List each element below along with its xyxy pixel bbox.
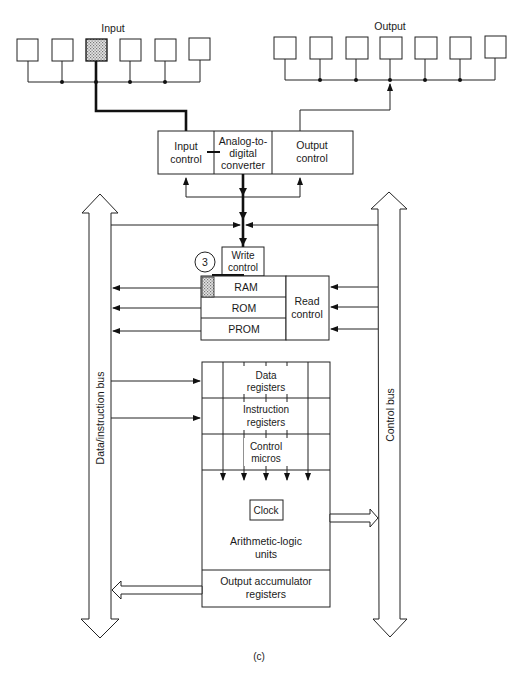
svg-text:Analog-to-: Analog-to-: [219, 135, 268, 147]
rom-label: ROM: [232, 302, 257, 314]
svg-text:registers: registers: [246, 588, 286, 600]
accumulator-to-data-bus-arrow: [112, 581, 202, 599]
control-bus: Control bus: [371, 192, 407, 637]
input-device-1: [17, 39, 38, 82]
svg-text:3: 3: [202, 256, 208, 268]
svg-text:Output accumulator: Output accumulator: [220, 575, 312, 587]
input-label: Input: [101, 22, 124, 34]
svg-text:converter: converter: [221, 159, 265, 171]
data-instruction-bus-label: Data/instruction bus: [94, 372, 106, 465]
input-section: Input: [17, 22, 210, 141]
active-input-path: [96, 61, 186, 141]
output-device-5: [415, 37, 437, 80]
prom-label: PROM: [228, 323, 260, 335]
svg-text:micros: micros: [251, 453, 280, 464]
output-device-3: [346, 37, 368, 80]
converter-block: Input control Analog-to- digital convert…: [158, 131, 353, 247]
ram-shaded-cell: [202, 277, 214, 297]
svg-text:Output: Output: [296, 139, 328, 151]
svg-text:Arithmetic-logic: Arithmetic-logic: [230, 535, 302, 547]
output-device-7: [485, 36, 506, 80]
alu-to-control-bus-arrow: [330, 509, 378, 527]
input-device-2: [52, 39, 73, 82]
svg-text:units: units: [255, 548, 277, 560]
memory-block: 3 Write control RAM ROM PROM Read contro…: [113, 247, 378, 340]
input-device-4: [120, 39, 141, 82]
output-device-4: [380, 37, 402, 80]
svg-text:control: control: [296, 152, 328, 164]
microprocessor-block-diagram: Input Output In: [0, 0, 517, 674]
cpu-block: Data registers Instruction registers Con…: [111, 362, 378, 607]
figure-caption: (c): [253, 651, 265, 662]
svg-text:control: control: [170, 153, 202, 165]
control-bus-label: Control bus: [384, 388, 396, 442]
output-device-1: [274, 37, 296, 80]
input-device-active: [86, 39, 107, 61]
output-label: Output: [374, 20, 406, 32]
svg-text:Data: Data: [255, 370, 277, 381]
svg-text:Clock: Clock: [253, 505, 279, 516]
output-device-6: [450, 37, 471, 80]
output-control-cell: Output control: [296, 139, 328, 164]
svg-text:Read: Read: [294, 295, 319, 307]
svg-text:control: control: [228, 262, 258, 273]
svg-text:Instruction: Instruction: [243, 404, 289, 415]
svg-text:Input: Input: [174, 140, 197, 152]
input-device-5: [155, 39, 176, 82]
ram-label: RAM: [234, 281, 257, 293]
output-device-2: [310, 37, 332, 80]
svg-text:registers: registers: [247, 382, 285, 393]
svg-text:digital: digital: [229, 147, 256, 159]
control-micros: Control micros: [250, 441, 282, 464]
input-control-cell: Input control: [170, 140, 202, 165]
svg-text:control: control: [291, 308, 323, 320]
svg-text:registers: registers: [247, 417, 285, 428]
output-control-path: [300, 84, 390, 131]
data-instruction-bus: Data/instruction bus: [81, 194, 119, 638]
input-device-6: [189, 38, 210, 82]
svg-text:Write: Write: [231, 250, 255, 261]
output-section: Output: [274, 20, 506, 131]
svg-text:Control: Control: [250, 441, 282, 452]
